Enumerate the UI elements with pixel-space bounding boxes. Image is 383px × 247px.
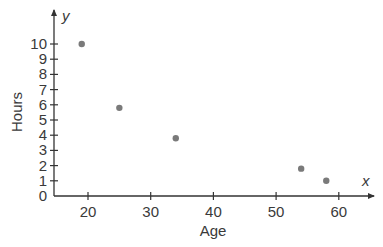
x-tick-label: 40 — [205, 203, 222, 220]
y-tick-label: 5 — [39, 111, 47, 128]
y-tick-label: 2 — [39, 157, 47, 174]
data-points — [79, 41, 330, 184]
x-tick-label: 60 — [330, 203, 347, 220]
y-axis-title: Hours — [8, 92, 25, 132]
y-tick-label: 0 — [39, 187, 47, 204]
y-tick-label: 7 — [39, 81, 47, 98]
y-tick-label: 10 — [30, 35, 47, 52]
data-point — [173, 135, 179, 141]
data-point — [298, 165, 304, 171]
y-tick-label: 3 — [39, 141, 47, 158]
y-tick-label: 4 — [39, 126, 47, 143]
x-variable-label: x — [361, 172, 370, 189]
scatter-chart: 012345678910 2030405060 y x Age Hours — [0, 0, 383, 247]
x-tick-label: 50 — [268, 203, 285, 220]
x-tick-label: 20 — [80, 203, 97, 220]
y-tick-label: 8 — [39, 65, 47, 82]
y-tick-label: 6 — [39, 96, 47, 113]
y-tick-label: 9 — [39, 50, 47, 67]
data-point — [79, 41, 85, 47]
y-variable-label: y — [61, 7, 71, 24]
x-tick-label: 30 — [142, 203, 159, 220]
data-point — [116, 105, 122, 111]
x-axis-title: Age — [200, 222, 227, 239]
y-tick-label: 1 — [39, 172, 47, 189]
data-point — [323, 178, 329, 184]
